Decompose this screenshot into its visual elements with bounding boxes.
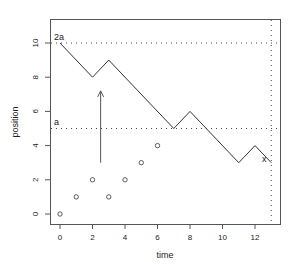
scatter-point [139,161,143,165]
scatter-point [58,212,62,216]
scatter-points [58,143,160,216]
scatter-point [107,195,111,199]
x-tick-label: 12 [251,233,260,242]
scatter-point [90,178,94,182]
arrow-annotation [98,91,104,163]
path-line [60,43,271,163]
scatter-point [123,178,127,182]
scatter-point [74,195,78,199]
y-tick-label: 10 [31,38,40,47]
x-tick-label: 6 [155,233,160,242]
annotation-a: a [54,117,59,127]
x-tick-label: 0 [58,233,63,242]
y-axis-label: position [10,106,20,137]
annotation-x: x [262,154,267,164]
scatter-point [155,143,159,147]
chart: 024681012 0246810 2a a x time position [0,0,295,271]
y-tick-label: 4 [31,143,40,148]
x-tick-label: 8 [188,233,193,242]
annotation-2a: 2a [54,32,64,42]
x-axis-label: time [156,250,173,260]
y-tick-label: 0 [31,211,40,216]
y-tick-label: 2 [31,177,40,182]
y-axis: 0246810 [31,38,50,216]
x-axis: 024681012 [58,224,260,242]
x-tick-label: 10 [218,233,227,242]
x-tick-label: 2 [90,233,95,242]
x-tick-label: 4 [123,233,128,242]
reference-lines [51,20,280,224]
y-tick-label: 6 [31,109,40,114]
y-tick-label: 8 [31,74,40,79]
plot-area [51,20,281,225]
